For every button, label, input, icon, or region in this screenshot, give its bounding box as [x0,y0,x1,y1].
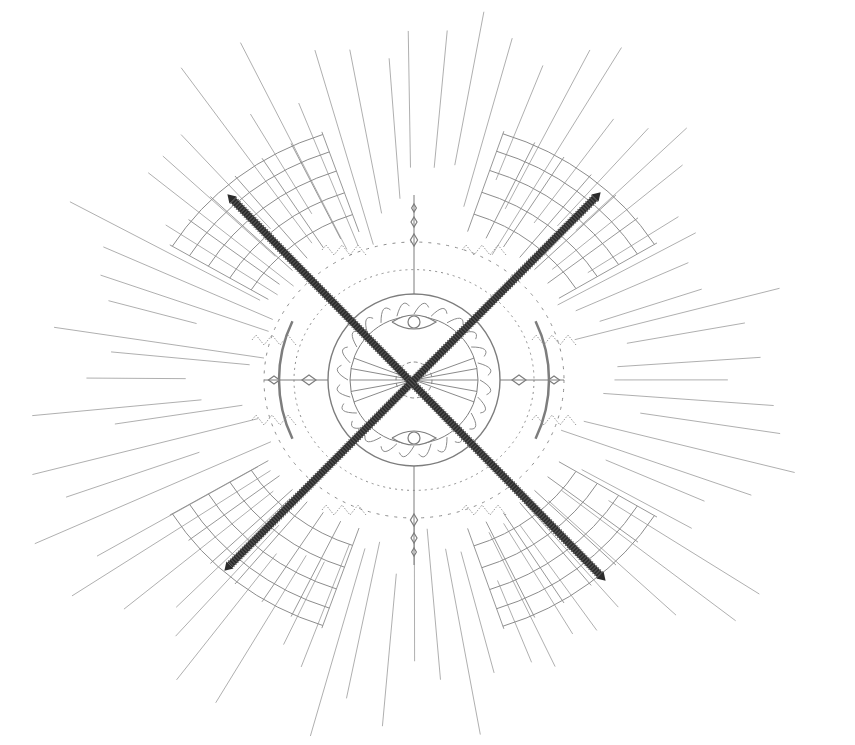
compass-mandala-illustration [0,0,855,745]
illustration-canvas [0,0,855,745]
